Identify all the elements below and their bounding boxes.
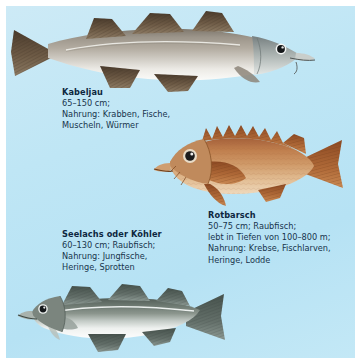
- species-detail-rotbarsch-2: lebt in Tiefen von 100–800 m;: [208, 232, 331, 243]
- species-detail-seelachs-1: 60–130 cm; Raubfisch;: [62, 240, 162, 251]
- cod-caudal-fin: [11, 30, 51, 76]
- species-name-kabeljau: Kabeljau: [62, 87, 170, 98]
- redfish-illustration: [146, 122, 352, 210]
- species-detail-kabeljau-2: Nahrung: Krabben, Fische,: [62, 109, 170, 120]
- species-detail-seelachs-3: Heringe, Sprotten: [62, 262, 162, 273]
- species-name-rotbarsch: Rotbarsch: [208, 210, 331, 221]
- species-detail-rotbarsch-4: Heringe, Lodde: [208, 255, 331, 266]
- pollock-illustration: [18, 282, 233, 358]
- caption-rotbarsch: Rotbarsch 50–75 cm; Raubfisch; lebt in T…: [208, 210, 331, 266]
- cod-barbel: [294, 62, 297, 74]
- pollock-head: [32, 296, 65, 332]
- fish-plate-page: Kabeljau 65–150 cm; Nahrung: Krabben, Fi…: [0, 0, 355, 358]
- species-detail-rotbarsch-1: 50–75 cm; Raubfisch;: [208, 221, 331, 232]
- species-detail-rotbarsch-3: Nahrung: Krebse, Fischlarven,: [208, 243, 331, 254]
- species-name-seelachs: Seelachs oder Köhler: [62, 229, 162, 240]
- cod-illustration: [8, 8, 338, 94]
- species-detail-seelachs-2: Nahrung: Jungfische,: [62, 251, 162, 262]
- species-detail-kabeljau-1: 65–150 cm;: [62, 98, 170, 109]
- caption-seelachs: Seelachs oder Köhler 60–130 cm; Raubfisc…: [62, 229, 162, 274]
